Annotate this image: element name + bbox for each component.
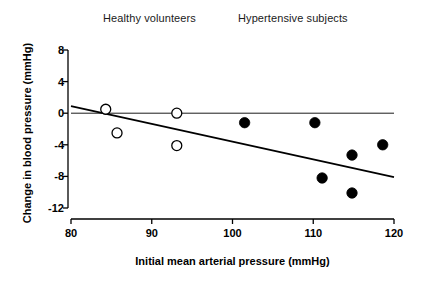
- data-point-filled: [347, 150, 357, 160]
- data-point-open: [101, 104, 111, 114]
- data-point-open: [172, 108, 182, 118]
- data-point-open: [172, 141, 182, 151]
- data-point-filled: [310, 117, 320, 127]
- data-point-filled: [239, 117, 249, 127]
- chart-figure: Healthy volunteers Hypertensive subjects…: [0, 0, 426, 282]
- regression-line: [71, 106, 394, 177]
- data-point-open: [112, 128, 122, 138]
- plot-area: [0, 0, 426, 282]
- trend-line: [71, 106, 394, 177]
- data-points: [101, 104, 388, 198]
- data-point-filled: [317, 173, 327, 183]
- data-point-filled: [377, 140, 387, 150]
- axes: [63, 50, 394, 224]
- data-point-filled: [347, 188, 357, 198]
